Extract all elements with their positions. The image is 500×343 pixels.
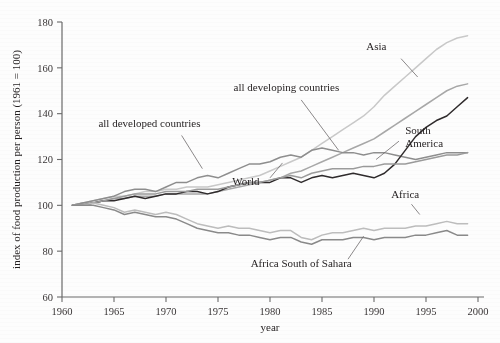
food-production-chart: 6080100120140160180196019651970197519801… bbox=[0, 0, 500, 343]
series-label-south-america: South bbox=[405, 124, 431, 136]
axes-group: 6080100120140160180196019651970197519801… bbox=[37, 17, 488, 317]
y-axis-tick-label: 140 bbox=[37, 108, 53, 119]
x-axis-tick-label: 1995 bbox=[416, 306, 437, 317]
y-axis-tick-label: 100 bbox=[37, 200, 53, 211]
x-axis-tick-label: 1965 bbox=[104, 306, 125, 317]
series-leader-line bbox=[411, 204, 419, 214]
y-axis-tick-label: 160 bbox=[37, 63, 53, 74]
series-leader-line bbox=[376, 141, 399, 159]
series-label-africa-south-of-sahara: Africa South of Sahara bbox=[251, 257, 352, 269]
y-axis-tick-label: 80 bbox=[43, 246, 54, 257]
y-axis-title: index of food production per person (196… bbox=[10, 50, 23, 269]
x-axis-tick-label: 2000 bbox=[468, 306, 489, 317]
y-axis-tick-label: 120 bbox=[37, 154, 53, 165]
series-label-asia: Asia bbox=[366, 40, 386, 52]
series-label-all-developed-countries: all developed countries bbox=[98, 117, 200, 129]
series-label-all-developing-countries: all developing countries bbox=[234, 81, 340, 93]
x-axis-tick-label: 1960 bbox=[52, 306, 73, 317]
x-axis-tick-label: 1970 bbox=[156, 306, 177, 317]
series-label-world: World bbox=[232, 175, 260, 187]
x-axis-title: year bbox=[261, 321, 280, 333]
series-leader-line bbox=[348, 236, 364, 259]
series-label-south-america: America bbox=[405, 137, 443, 149]
y-axis-tick-label: 60 bbox=[43, 292, 54, 303]
series-leader-line bbox=[182, 135, 203, 168]
x-axis-tick-label: 1975 bbox=[208, 306, 229, 317]
y-axis-tick-label: 180 bbox=[37, 17, 53, 28]
x-axis-tick-label: 1985 bbox=[312, 306, 333, 317]
x-axis-tick-label: 1990 bbox=[364, 306, 385, 317]
series-line bbox=[72, 203, 467, 240]
series-label-africa: Africa bbox=[391, 188, 419, 200]
chart-canvas: 6080100120140160180196019651970197519801… bbox=[0, 0, 500, 343]
x-axis-tick-label: 1980 bbox=[260, 306, 281, 317]
series-leader-line bbox=[301, 100, 338, 150]
